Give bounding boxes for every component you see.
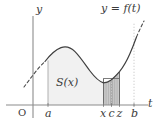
tick-label-x: x [100,108,106,119]
riemann-strip-shading [104,72,120,105]
curve-equation-label: y = f(t) [101,3,141,14]
tick-label-b: b [131,108,138,119]
area-function-figure: y t O y = f(t) S(x) a x c z b [0,0,157,133]
area-label-Sx: S(x) [56,77,78,88]
tick-label-a: a [45,108,52,119]
t-axis-label: t [148,98,152,109]
origin-label: O [18,108,26,118]
tick-label-c: c [109,108,115,119]
curve-dashed-tail [137,21,145,37]
curve-dashed-head [24,63,44,88]
y-axis-label: y [36,4,42,15]
tick-label-z: z [117,108,123,119]
